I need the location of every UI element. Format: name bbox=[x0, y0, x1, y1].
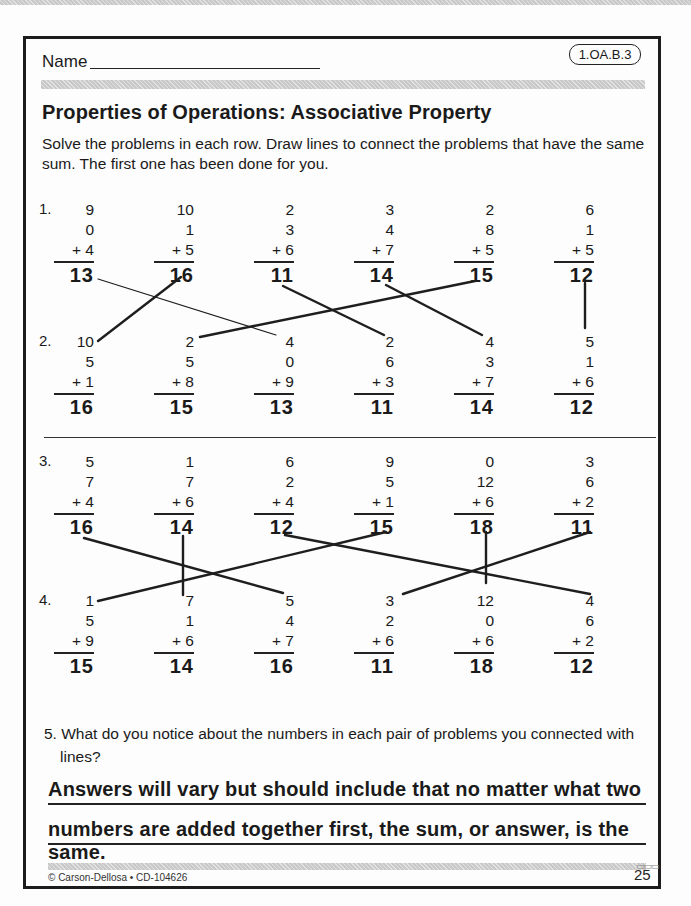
addend-1: 4 bbox=[554, 591, 594, 611]
addend-1: 4 bbox=[454, 332, 494, 352]
addend-1: 5 bbox=[254, 591, 294, 611]
addition-problem: 36+ 211 bbox=[554, 452, 594, 539]
addition-problem: 17+ 614 bbox=[154, 452, 194, 539]
addend-1: 6 bbox=[254, 452, 294, 472]
addend-1: 0 bbox=[454, 452, 494, 472]
addition-problem: 25+ 815 bbox=[154, 332, 194, 419]
addend-2: 1 bbox=[154, 220, 194, 240]
addition-problem: 105+ 116 bbox=[54, 332, 94, 419]
sum-answer: 11 bbox=[554, 515, 594, 539]
addend-2: 5 bbox=[54, 352, 94, 372]
top-gray-strip bbox=[0, 0, 691, 5]
addend-3: + 3 bbox=[354, 372, 394, 392]
instructions-line-1: Solve the problems in each row. Draw lin… bbox=[42, 135, 644, 153]
addition-problem: 71+ 614 bbox=[154, 591, 194, 678]
addition-problem: 15+ 915 bbox=[54, 591, 94, 678]
addend-2: 0 bbox=[54, 220, 94, 240]
answer-rule-1 bbox=[48, 803, 646, 805]
addend-2: 7 bbox=[154, 472, 194, 492]
addition-problem: 57+ 416 bbox=[54, 452, 94, 539]
addend-1: 2 bbox=[254, 200, 294, 220]
sum-answer: 16 bbox=[54, 395, 94, 419]
addend-2: 7 bbox=[54, 472, 94, 492]
addition-problem: 101+ 516 bbox=[154, 200, 194, 287]
row-label-2: 2. bbox=[39, 332, 52, 349]
addition-problem: 28+ 515 bbox=[454, 200, 494, 287]
addend-1: 6 bbox=[554, 200, 594, 220]
addend-3: + 2 bbox=[554, 492, 594, 512]
sum-answer: 16 bbox=[54, 515, 94, 539]
addend-3: + 7 bbox=[454, 372, 494, 392]
addend-3: + 6 bbox=[154, 631, 194, 651]
addend-3: + 5 bbox=[454, 240, 494, 260]
name-label: Name bbox=[42, 52, 87, 72]
addend-3: + 6 bbox=[454, 492, 494, 512]
addend-2: 3 bbox=[454, 352, 494, 372]
sum-answer: 16 bbox=[154, 263, 194, 287]
addend-2: 1 bbox=[554, 352, 594, 372]
sum-answer: 14 bbox=[154, 654, 194, 678]
addend-3: + 6 bbox=[354, 631, 394, 651]
addend-3: + 8 bbox=[154, 372, 194, 392]
sum-answer: 12 bbox=[254, 515, 294, 539]
sum-answer: 18 bbox=[454, 654, 494, 678]
sum-answer: 16 bbox=[254, 654, 294, 678]
addend-1: 12 bbox=[454, 591, 494, 611]
addend-1: 9 bbox=[54, 200, 94, 220]
answer-rule-2 bbox=[48, 843, 646, 845]
addend-2: 0 bbox=[454, 611, 494, 631]
addition-problem: 43+ 714 bbox=[454, 332, 494, 419]
sum-answer: 15 bbox=[454, 263, 494, 287]
standard-badge: 1.OA.B.3 bbox=[569, 44, 641, 65]
addition-problem: 46+ 212 bbox=[554, 591, 594, 678]
addition-problem: 012+ 618 bbox=[454, 452, 494, 539]
answer-line-2[interactable]: numbers are added together first, the su… bbox=[48, 818, 691, 864]
addition-problem: 23+ 611 bbox=[254, 200, 294, 287]
addend-3: + 5 bbox=[554, 240, 594, 260]
addend-3: + 6 bbox=[454, 631, 494, 651]
addend-2: 6 bbox=[554, 611, 594, 631]
addend-1: 3 bbox=[354, 591, 394, 611]
addition-problem: 51+ 612 bbox=[554, 332, 594, 419]
sum-answer: 13 bbox=[54, 263, 94, 287]
addition-problem: 26+ 311 bbox=[354, 332, 394, 419]
addend-1: 2 bbox=[454, 200, 494, 220]
addend-2: 2 bbox=[354, 611, 394, 631]
addend-1: 1 bbox=[154, 452, 194, 472]
sum-answer: 12 bbox=[554, 654, 594, 678]
addition-problem: 120+ 618 bbox=[454, 591, 494, 678]
addend-3: + 5 bbox=[154, 240, 194, 260]
addition-problem: 61+ 512 bbox=[554, 200, 594, 287]
sum-answer: 13 bbox=[254, 395, 294, 419]
sum-answer: 11 bbox=[354, 395, 394, 419]
addend-3: + 7 bbox=[354, 240, 394, 260]
addition-problem: 54+ 716 bbox=[254, 591, 294, 678]
sum-answer: 15 bbox=[54, 654, 94, 678]
addend-2: 8 bbox=[454, 220, 494, 240]
addend-1: 9 bbox=[354, 452, 394, 472]
sum-answer: 15 bbox=[354, 515, 394, 539]
addend-2: 0 bbox=[254, 352, 294, 372]
sum-answer: 14 bbox=[154, 515, 194, 539]
addend-2: 5 bbox=[154, 352, 194, 372]
row-label-1: 1. bbox=[39, 200, 52, 217]
sum-answer: 12 bbox=[554, 263, 594, 287]
addition-problem: 34+ 714 bbox=[354, 200, 394, 287]
sum-answer: 18 bbox=[454, 515, 494, 539]
page-number: 25 bbox=[634, 866, 651, 883]
addend-2: 6 bbox=[554, 472, 594, 492]
answer-line-1[interactable]: Answers will vary but should include tha… bbox=[48, 778, 641, 801]
addend-2: 4 bbox=[254, 611, 294, 631]
sum-answer: 14 bbox=[454, 395, 494, 419]
addend-3: + 4 bbox=[54, 492, 94, 512]
footer-copyright: © Carson-Dellosa • CD-104626 bbox=[48, 872, 187, 883]
instructions-line-2: sum. The first one has been done for you… bbox=[42, 155, 329, 173]
sum-answer: 15 bbox=[154, 395, 194, 419]
header-divider-bar bbox=[41, 80, 645, 89]
addend-1: 5 bbox=[554, 332, 594, 352]
addend-2: 5 bbox=[354, 472, 394, 492]
addend-1: 3 bbox=[554, 452, 594, 472]
name-input-line[interactable] bbox=[90, 68, 320, 69]
addition-problem: 62+ 412 bbox=[254, 452, 294, 539]
sum-answer: 12 bbox=[554, 395, 594, 419]
